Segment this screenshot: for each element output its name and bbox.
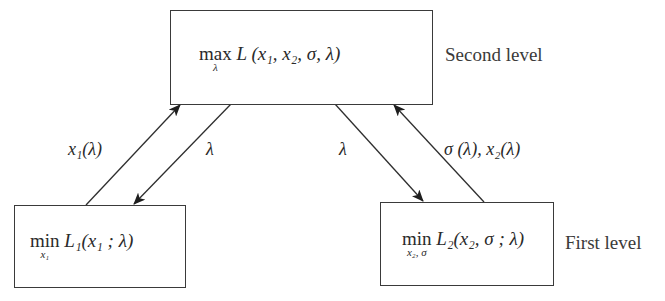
- first-level-formula-x2-sigma: minx₂, σ L₂(x₂, σ ; λ): [402, 228, 524, 250]
- min-operator-x1: minx₁: [30, 230, 60, 252]
- objective-L: L (x₁, x₂, σ, λ): [236, 43, 340, 64]
- max-operator: maxλ: [199, 43, 232, 65]
- max-subscript: λ: [213, 61, 218, 73]
- first-level-label: First level: [565, 232, 642, 254]
- edge-label-x1-lambda: x₁(λ): [68, 139, 102, 160]
- arrow-lambda-to-bottom-right: [335, 104, 423, 201]
- min-subscript-x2-sigma: x₂, σ: [407, 246, 427, 258]
- first-level-formula-x1: minx₁ L₁(x₁ ; λ): [30, 230, 133, 252]
- edge-label-lambda-right: λ: [339, 139, 347, 160]
- objective-L2: L₂(x₂, σ ; λ): [436, 228, 524, 249]
- objective-L1: L₁(x₁ ; λ): [64, 230, 133, 251]
- min-operator-x2-sigma: minx₂, σ: [402, 228, 432, 250]
- edge-label-lambda-left: λ: [206, 139, 214, 160]
- second-level-label: Second level: [445, 44, 543, 66]
- edge-label-sigma-x2-lambda: σ (λ), x₂(λ): [444, 139, 520, 160]
- min-subscript-x1: x₁: [40, 248, 49, 260]
- second-level-formula: maxλ L (x₁, x₂, σ, λ): [199, 43, 340, 65]
- arrow-lambda-to-bottom-left: [134, 104, 231, 204]
